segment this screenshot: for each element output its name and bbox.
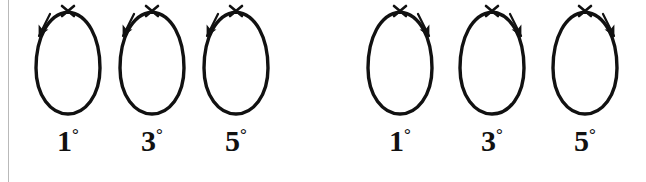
loop-label-value: 1 [57,124,72,157]
loop-label-value: 3 [141,124,156,157]
loop-label: 1° [350,126,450,156]
loop-label-value: 5 [574,124,589,157]
degree-symbol: ° [404,125,411,144]
loop-group: 3° [442,0,542,182]
loop-group: 5° [535,0,635,182]
loop-curve [204,12,268,114]
loop-svg [442,0,542,130]
loop-curve [120,12,184,114]
loop-curve [553,12,617,114]
loop-svg [535,0,635,130]
loop-label: 5° [186,126,286,156]
loop-label: 3° [442,126,542,156]
loop-svg [350,0,450,130]
loop-group: 5° [186,0,286,182]
degree-symbol: ° [240,125,247,144]
loop-label-value: 1 [389,124,404,157]
left-border-rule [8,0,9,182]
degree-symbol: ° [72,125,79,144]
loop-group: 1° [350,0,450,182]
degree-symbol: ° [496,125,503,144]
degree-symbol: ° [156,125,163,144]
loop-curve [368,12,432,114]
loop-label-value: 5 [225,124,240,157]
loop-curve [460,12,524,114]
loop-diagram-figure: 1°3°5°1°3°5° [0,0,646,182]
degree-symbol: ° [589,125,596,144]
loop-label: 5° [535,126,635,156]
loop-curve [36,12,100,114]
loop-svg [186,0,286,130]
loop-label-value: 3 [481,124,496,157]
